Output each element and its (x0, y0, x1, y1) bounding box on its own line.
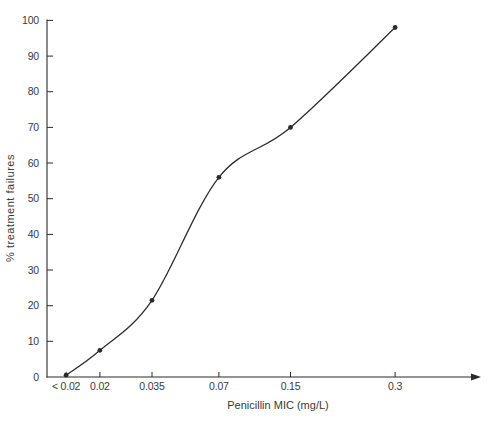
y-tick-label: 10 (28, 335, 40, 347)
x-axis: < 0.020.020.0350.070.150.3 Penicillin MI… (47, 372, 481, 411)
x-tick-label: 0.035 (139, 380, 165, 392)
x-tick-label: 0.02 (90, 380, 110, 392)
y-tick-label: 50 (28, 192, 40, 204)
data-points (64, 25, 398, 378)
x-tick-label: 0.15 (281, 380, 301, 392)
x-tick-label: 0.07 (209, 380, 229, 392)
y-tick-label: 20 (28, 299, 40, 311)
y-tick-label: 40 (28, 228, 40, 240)
x-axis-ticks: < 0.020.020.0350.070.150.3 (52, 372, 403, 392)
line-chart: 0102030405060708090100 % treatment failu… (0, 0, 496, 427)
x-axis-arrowhead-icon (471, 373, 481, 380)
data-point-dot (150, 298, 155, 303)
y-axis-title: % treatment failures (4, 154, 16, 262)
y-axis-ticks: 0102030405060708090100 (22, 14, 53, 383)
x-tick-label: < 0.02 (52, 380, 81, 392)
data-point-dot (217, 175, 222, 180)
data-point-dot (64, 373, 69, 378)
y-tick-label: 70 (28, 121, 40, 133)
y-tick-label: 30 (28, 264, 40, 276)
y-tick-label: 60 (28, 157, 40, 169)
data-curve (66, 28, 395, 376)
y-tick-label: 100 (22, 14, 39, 26)
y-axis: 0102030405060708090100 % treatment failu… (4, 14, 53, 383)
y-tick-label: 80 (28, 85, 40, 97)
y-tick-label: 0 (33, 371, 39, 383)
x-axis-title: Penicillin MIC (mg/L) (227, 399, 328, 411)
data-point-dot (288, 125, 293, 130)
chart-figure: 0102030405060708090100 % treatment failu… (0, 0, 496, 427)
data-point-dot (393, 25, 398, 30)
data-point-dot (98, 348, 103, 353)
x-tick-label: 0.3 (388, 380, 402, 392)
y-tick-label: 90 (28, 50, 40, 62)
